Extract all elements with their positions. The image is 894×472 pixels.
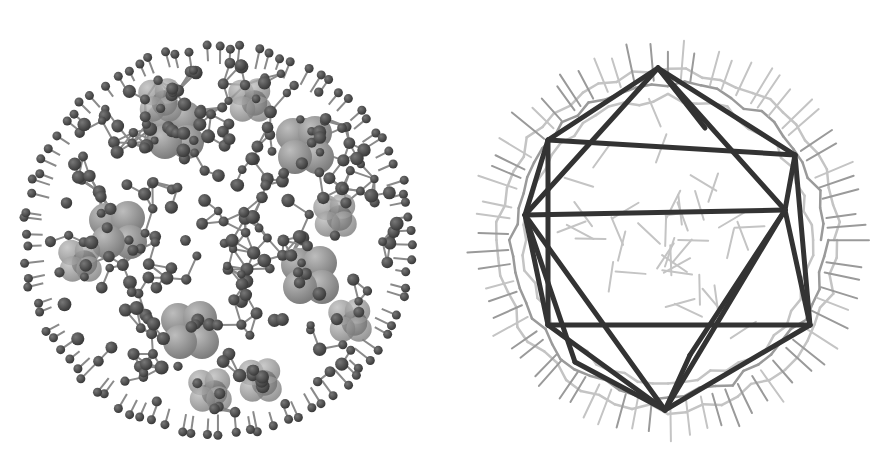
- icosahedron-wireframe-panel: [447, 0, 894, 472]
- icosahedron-wireframe-image: [447, 0, 894, 472]
- ball-and-stick-cluster-panel: [0, 0, 447, 472]
- ball-and-stick-cluster-image: [0, 0, 447, 472]
